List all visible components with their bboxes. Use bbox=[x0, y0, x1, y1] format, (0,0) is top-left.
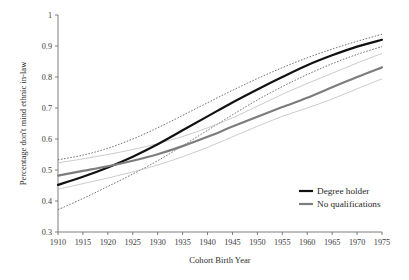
series-no-qualifications bbox=[58, 67, 382, 175]
x-axis-tick-label: 1945 bbox=[224, 238, 240, 247]
x-axis-tick-label: 1925 bbox=[125, 238, 141, 247]
y-axis-title: Percentage don't mind ethnic in-law bbox=[18, 61, 28, 186]
x-axis-tick-label: 1955 bbox=[274, 238, 290, 247]
y-axis-tick-label: 0.7 bbox=[42, 104, 52, 113]
chart-container: 0.30.40.50.60.70.80.91191019151920192519… bbox=[0, 0, 409, 280]
y-axis-tick-label: 0.3 bbox=[42, 228, 52, 237]
x-axis-tick-label: 1965 bbox=[324, 238, 340, 247]
x-axis-tick-label: 1970 bbox=[349, 238, 365, 247]
x-axis-tick-label: 1935 bbox=[174, 238, 190, 247]
legend-label-no-qualifications: No qualifications bbox=[317, 199, 381, 209]
y-axis-tick-label: 0.8 bbox=[42, 73, 52, 82]
y-axis-tick-label: 0.6 bbox=[42, 135, 52, 144]
x-axis-tick-label: 1940 bbox=[199, 238, 215, 247]
x-axis-tick-label: 1915 bbox=[75, 238, 91, 247]
y-axis-tick-label: 0.9 bbox=[42, 42, 52, 51]
line-chart: 0.30.40.50.60.70.80.91191019151920192519… bbox=[0, 0, 409, 280]
y-axis-tick-label: 0.4 bbox=[42, 197, 52, 206]
series-degree-holder bbox=[58, 40, 382, 185]
x-axis-tick-label: 1950 bbox=[249, 238, 265, 247]
x-axis-tick-label: 1930 bbox=[150, 238, 166, 247]
legend-label-degree-holder: Degree holder bbox=[317, 186, 369, 196]
x-axis-tick-label: 1910 bbox=[50, 238, 66, 247]
series-degree-holder-upper-ci bbox=[58, 34, 382, 160]
x-axis-tick-label: 1975 bbox=[374, 238, 390, 247]
y-axis-tick-label: 1 bbox=[48, 11, 52, 20]
series-no-qualifications-lower-ci bbox=[58, 79, 382, 189]
y-axis-tick-label: 0.5 bbox=[42, 166, 52, 175]
x-axis-tick-label: 1960 bbox=[299, 238, 315, 247]
x-axis-tick-label: 1920 bbox=[100, 238, 116, 247]
series-degree-holder-lower-ci bbox=[58, 47, 382, 210]
x-axis-title: Cohort Birth Year bbox=[189, 255, 250, 265]
